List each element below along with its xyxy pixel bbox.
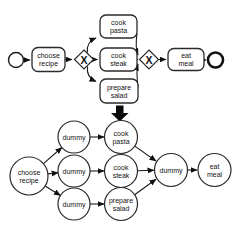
node-choose-recipe-label-line1: choose — [18, 169, 41, 176]
edge-cook-pasta-to-dummy-join — [135, 146, 156, 161]
node-cook-steak-label-line2: steak — [113, 172, 130, 179]
edge-prepare-salad-to-dummy-join — [135, 179, 156, 195]
node-cook-steak-label-line1: cook — [114, 164, 129, 171]
join-gateway-x-symbol: X — [145, 54, 152, 66]
task-choose-recipe-label-line2: recipe — [39, 60, 58, 68]
diagram-canvas: choose recipe cook pasta cook steak prep… — [0, 0, 237, 228]
node-dummy-mid-label: dummy — [63, 168, 86, 176]
edge-split-gateway-to-prepare-salad — [87, 67, 96, 82]
edge-choose-recipe-to-dummy-bottom — [45, 186, 60, 196]
task-cook-pasta: cook pasta — [100, 15, 137, 38]
node-cook-pasta-label-line2: pasta — [112, 138, 129, 146]
transformed-net-diagram: choose recipe dummy dummy dummy cook pas… — [10, 121, 231, 221]
node-dummy-join: dummy — [155, 154, 188, 187]
node-cook-pasta-label-line1: cook — [114, 130, 129, 137]
task-choose-recipe: choose recipe — [32, 48, 65, 72]
node-eat-meal-label-line2: meal — [207, 171, 223, 178]
node-eat-meal-label-line1: eat — [210, 163, 220, 170]
node-choose-recipe-label-line2: recipe — [19, 177, 38, 185]
task-eat-meal-label-line1: eat — [181, 52, 191, 59]
task-prepare-salad: prepare salad — [100, 79, 138, 103]
task-prepare-salad-label-line2: salad — [111, 92, 128, 99]
node-dummy-join-label: dummy — [160, 167, 183, 175]
node-dummy-bottom: dummy — [58, 188, 90, 220]
node-eat-meal: eat meal — [198, 154, 231, 187]
transformation-down-arrow-icon — [111, 106, 129, 122]
node-choose-recipe: choose recipe — [10, 157, 48, 195]
node-prepare-salad-label-line2: salad — [113, 205, 130, 212]
edge-split-gateway-to-cook-pasta — [87, 38, 96, 53]
task-cook-pasta-label-line1: cook — [111, 19, 126, 26]
node-dummy-bottom-label: dummy — [63, 201, 86, 209]
task-cook-steak-label-line2: steak — [110, 60, 127, 67]
task-cook-steak: cook steak — [100, 48, 137, 71]
task-cook-pasta-label-line2: pasta — [110, 27, 127, 35]
node-dummy-mid: dummy — [58, 155, 90, 187]
node-prepare-salad: prepare salad — [105, 188, 138, 221]
node-prepare-salad-label-line1: prepare — [109, 197, 133, 205]
task-eat-meal: eat meal — [168, 49, 204, 71]
edge-choose-recipe-to-dummy-mid — [48, 173, 58, 174]
join-gateway: X — [140, 50, 159, 69]
task-choose-recipe-label-line1: choose — [37, 52, 60, 59]
bpmn-diagram: choose recipe cook pasta cook steak prep… — [9, 15, 224, 103]
edge-choose-recipe-to-dummy-top — [43, 148, 62, 164]
start-event-circle — [9, 53, 24, 68]
split-gateway-x-symbol: X — [80, 54, 87, 66]
end-event-circle — [208, 53, 223, 68]
split-gateway: X — [75, 50, 94, 69]
process-transformation-diagram: choose recipe cook pasta cook steak prep… — [0, 0, 237, 228]
task-prepare-salad-label-line1: prepare — [107, 84, 131, 92]
node-cook-pasta: cook pasta — [105, 121, 138, 154]
node-dummy-top: dummy — [58, 121, 90, 153]
task-eat-meal-label-line2: meal — [178, 60, 194, 67]
node-cook-steak: cook steak — [105, 155, 138, 188]
node-dummy-top-label: dummy — [63, 134, 86, 142]
task-cook-steak-label-line1: cook — [111, 52, 126, 59]
